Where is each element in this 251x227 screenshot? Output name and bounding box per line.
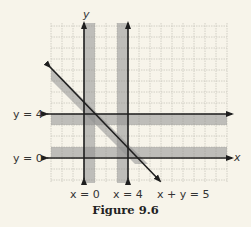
y-axis-label: y — [82, 8, 90, 21]
figure-graph: y x y = 4 y = 0 x = 0 x = 4 x + y = 5 — [0, 0, 251, 227]
band-x4 — [117, 23, 128, 183]
label-xy5: x + y = 5 — [157, 188, 209, 201]
label-y0: y = 0 — [13, 152, 43, 165]
label-x0: x = 0 — [70, 188, 100, 201]
band-y4 — [51, 114, 227, 125]
label-y4: y = 4 — [13, 108, 43, 121]
label-x4: x = 4 — [113, 188, 143, 201]
x-axis-label: x — [233, 151, 241, 164]
figure-caption: Figure 9.6 — [0, 203, 251, 217]
